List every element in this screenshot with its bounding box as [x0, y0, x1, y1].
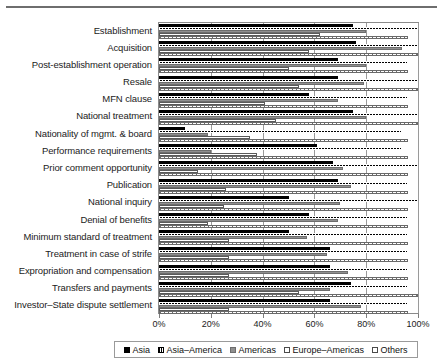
legend-item-others[interactable]: Others: [372, 345, 408, 355]
gridline-100: [418, 23, 419, 313]
legend-swatch-asia-icon: [124, 347, 130, 353]
legend-swatch-americas-icon: [230, 347, 236, 353]
bar-group: [159, 281, 418, 298]
bar-others: [159, 53, 418, 56]
x-tick-label: 40%: [254, 319, 272, 329]
x-tick-label: 20%: [202, 319, 220, 329]
x-tick: [366, 314, 367, 318]
category-label: Post-establishment operation: [32, 59, 152, 70]
category-label: Minimum standard of treatment: [23, 231, 152, 242]
x-tick: [418, 314, 419, 318]
bar-others: [159, 105, 408, 108]
x-tick-label: 60%: [305, 319, 323, 329]
plot-area: [158, 22, 419, 314]
bar-group: [159, 246, 418, 263]
category-label: Nationality of mgmt. & board: [35, 128, 152, 139]
x-tick: [211, 314, 212, 318]
bar-group: [159, 57, 418, 74]
bar-group: [159, 298, 418, 315]
legend-swatch-asia-america-icon: [158, 347, 164, 353]
legend-item-label: Asia: [133, 345, 151, 355]
category-label: Expropriation and compensation: [19, 265, 152, 276]
bar-others: [159, 139, 408, 142]
x-tick: [263, 314, 264, 318]
category-label: Prior comment opportunity: [43, 162, 152, 173]
bar-others: [159, 36, 408, 39]
bar-others: [159, 294, 418, 297]
chart-legend: AsiaAsia–AmericaAmericasEurope–AmericasO…: [114, 341, 418, 358]
x-axis: 0%20%40%60%80%100%: [158, 314, 419, 336]
category-label: National inquiry: [88, 196, 152, 207]
bar-group: [159, 212, 418, 229]
bar-others: [159, 70, 408, 73]
bar-others: [159, 88, 418, 91]
x-tick: [159, 314, 160, 318]
x-tick-label: 0%: [152, 319, 165, 329]
category-axis: EstablishmentAcquisitionPost-establishme…: [0, 22, 155, 314]
bar-others: [159, 191, 408, 194]
category-label: Resale: [123, 76, 152, 87]
legend-swatch-others-icon: [372, 347, 378, 353]
category-label: Investor–State dispute settlement: [14, 299, 152, 310]
category-label: MFN clause: [102, 93, 152, 104]
category-label: Treatment in case of strife: [45, 248, 152, 259]
bar-others: [159, 259, 408, 262]
legend-item-europe-americas[interactable]: Europe–Americas: [284, 345, 364, 355]
bar-group: [159, 178, 418, 195]
bar-group: [159, 23, 418, 40]
category-label: Publication: [107, 179, 152, 190]
x-tick: [314, 314, 315, 318]
bar-group: [159, 40, 418, 57]
bar-chart-figure: EstablishmentAcquisitionPost-establishme…: [0, 10, 443, 362]
bar-group: [159, 229, 418, 246]
bar-others: [159, 173, 408, 176]
legend-item-label: Americas: [239, 345, 277, 355]
bar-others: [159, 225, 408, 228]
bar-group: [159, 143, 418, 160]
x-tick-label: 80%: [357, 319, 375, 329]
bar-group: [159, 75, 418, 92]
legend-item-label: Europe–Americas: [293, 345, 365, 355]
bar-group: [159, 92, 418, 109]
bar-group: [159, 160, 418, 177]
legend-item-asia[interactable]: Asia: [124, 345, 150, 355]
category-label: Transfers and payments: [52, 282, 152, 293]
x-tick-label: 100%: [406, 319, 429, 329]
bar-others: [159, 208, 408, 211]
bar-group: [159, 126, 418, 143]
legend-item-label: Asia–America: [167, 345, 223, 355]
bar-others: [159, 277, 408, 280]
bar-group: [159, 195, 418, 212]
category-label: Acquisition: [107, 42, 152, 53]
category-label: Establishment: [94, 25, 152, 36]
top-horizontal-rule: [6, 6, 437, 8]
category-label: National treatment: [76, 110, 152, 121]
legend-item-label: Others: [381, 345, 408, 355]
legend-swatch-europe-americas-icon: [284, 347, 290, 353]
bar-others: [159, 156, 408, 159]
bar-others: [159, 122, 418, 125]
bar-others: [159, 242, 408, 245]
legend-item-asia-america[interactable]: Asia–America: [158, 345, 222, 355]
bar-group: [159, 263, 418, 280]
legend-item-americas[interactable]: Americas: [230, 345, 276, 355]
category-label: Performance requirements: [42, 145, 152, 156]
category-label: Denial of benefits: [80, 214, 152, 225]
bar-group: [159, 109, 418, 126]
